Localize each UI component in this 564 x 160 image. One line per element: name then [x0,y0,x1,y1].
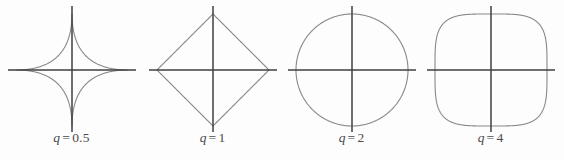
panel-label-q-0-5: q=0.5 [1,130,142,146]
panel-label-q-4: q=4 [420,130,561,146]
panel-label-q-2: q=2 [281,130,422,146]
plot-area-q-1 [142,0,283,132]
axes-q-1 [149,6,277,132]
label-variable: q [478,130,485,145]
superellipse-svg-q-2 [281,0,422,132]
panel-q-4: q=4 [420,0,561,160]
superellipse-figure: q=0.5 q=1 [0,0,564,160]
label-value: 1 [218,130,225,145]
plot-area-q-4 [420,0,561,132]
label-value: 0.5 [72,130,89,145]
plot-area-q-2 [281,0,422,132]
axes-q-2 [288,6,416,132]
label-operator: = [346,130,358,145]
label-value: 4 [496,130,503,145]
panel-label-q-1: q=1 [142,130,283,146]
label-operator: = [207,130,219,145]
panel-q-2: q=2 [281,0,422,160]
label-operator: = [60,130,72,145]
label-variable: q [339,130,346,145]
plot-area-q-0-5 [1,0,142,132]
label-value: 2 [357,130,364,145]
superellipse-svg-q-1 [142,0,283,132]
label-variable: q [200,130,207,145]
axes-q-4 [427,6,555,132]
panel-q-1: q=1 [142,0,283,160]
superellipse-svg-q-0-5 [1,0,142,132]
label-operator: = [485,130,497,145]
panel-q-0-5: q=0.5 [1,0,142,160]
superellipse-svg-q-4 [420,0,561,132]
